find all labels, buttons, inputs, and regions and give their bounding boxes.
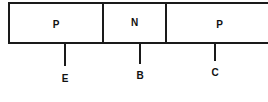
emitter-lead	[64, 44, 66, 66]
collector-region: P	[167, 4, 268, 42]
emitter-terminal-label: E	[62, 73, 69, 84]
base-lead	[139, 44, 141, 64]
base-region-label: N	[131, 17, 138, 28]
collector-region-label: P	[216, 19, 223, 30]
collector-lead	[214, 44, 216, 61]
base-region: N	[104, 4, 167, 42]
transistor-body: P N P	[8, 2, 268, 44]
emitter-region-label: P	[53, 19, 60, 30]
base-terminal-label: B	[136, 70, 143, 81]
collector-terminal-label: C	[211, 67, 218, 78]
emitter-region: P	[10, 4, 104, 42]
